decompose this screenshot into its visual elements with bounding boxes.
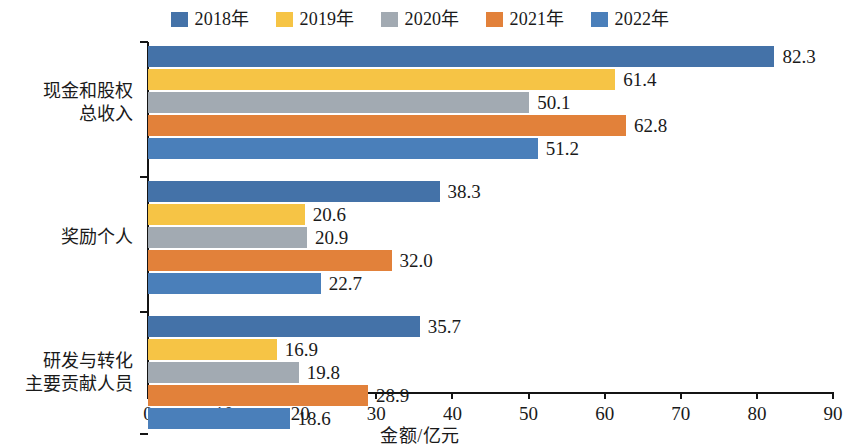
bar-value-label: 82.3 — [782, 46, 815, 67]
bar-2020年-2[interactable] — [148, 362, 299, 383]
legend-swatch-icon — [591, 12, 608, 27]
bar-2019年-0[interactable] — [148, 69, 615, 90]
y-axis-category-label: 研发与转化 主要贡献人员 — [0, 350, 133, 396]
bar-value-label: 62.8 — [634, 115, 667, 136]
bar-2021年-1[interactable] — [148, 250, 392, 271]
y-axis-tick — [140, 41, 148, 43]
x-axis-tick — [451, 392, 453, 399]
bar-value-label: 32.0 — [400, 250, 433, 271]
bar-value-label: 28.9 — [376, 385, 409, 406]
legend-swatch-icon — [171, 12, 188, 27]
x-axis-tick — [680, 392, 682, 399]
x-axis-tick — [756, 392, 758, 399]
legend-swatch-icon — [276, 12, 293, 27]
legend-swatch-icon — [486, 12, 503, 27]
y-axis-tick — [140, 176, 148, 178]
legend-item-2020年[interactable]: 2020年 — [381, 10, 460, 28]
bar-value-label: 22.7 — [329, 273, 362, 294]
x-axis-tick — [832, 392, 834, 399]
legend-label: 2018年 — [195, 10, 250, 28]
bar-value-label: 50.1 — [537, 92, 570, 113]
bar-value-label: 51.2 — [546, 138, 579, 159]
chart-legend: 2018年2019年2020年2021年2022年 — [0, 10, 840, 28]
bar-2020年-1[interactable] — [148, 227, 307, 248]
bar-value-label: 38.3 — [448, 181, 481, 202]
bar-value-label: 16.9 — [285, 339, 318, 360]
bar-value-label: 20.6 — [313, 204, 346, 225]
bar-value-label: 35.7 — [428, 316, 461, 337]
legend-label: 2022年 — [615, 10, 670, 28]
bar-2019年-2[interactable] — [148, 339, 277, 360]
bar-2018年-2[interactable] — [148, 316, 420, 337]
bar-2020年-0[interactable] — [148, 92, 529, 113]
bar-value-label: 19.8 — [307, 362, 340, 383]
legend-label: 2021年 — [510, 10, 565, 28]
bar-value-label: 61.4 — [623, 69, 656, 90]
plot-area: 0102030405060708090现金和股权 总收入82.361.450.1… — [148, 42, 833, 392]
legend-item-2018年[interactable]: 2018年 — [171, 10, 250, 28]
bar-value-label: 20.9 — [315, 227, 348, 248]
legend-swatch-icon — [381, 12, 398, 27]
y-axis-tick — [140, 311, 148, 313]
y-axis-category-label: 现金和股权 总收入 — [0, 80, 133, 126]
bar-2019年-1[interactable] — [148, 204, 305, 225]
bar-2021年-0[interactable] — [148, 115, 626, 136]
x-axis-tick — [604, 392, 606, 399]
legend-item-2019年[interactable]: 2019年 — [276, 10, 355, 28]
bar-2022年-1[interactable] — [148, 273, 321, 294]
x-axis-tick — [528, 392, 530, 399]
legend-label: 2020年 — [405, 10, 460, 28]
bar-2021年-2[interactable] — [148, 385, 368, 406]
bar-2022年-0[interactable] — [148, 138, 538, 159]
legend-item-2021年[interactable]: 2021年 — [486, 10, 565, 28]
y-axis-category-label: 奖励个人 — [0, 226, 133, 249]
legend-item-2022年[interactable]: 2022年 — [591, 10, 670, 28]
bar-2018年-0[interactable] — [148, 46, 774, 67]
x-axis-title: 金额/亿元 — [0, 421, 840, 445]
legend-label: 2019年 — [300, 10, 355, 28]
bar-2018年-1[interactable] — [148, 181, 440, 202]
